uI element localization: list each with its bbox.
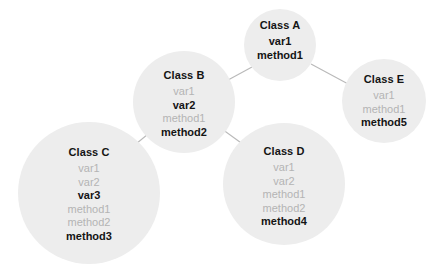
class-node-e[interactable]: Class Evar1method1method5 — [342, 59, 426, 143]
class-node-c[interactable]: Class Cvar1var2var3method1method2method3 — [18, 122, 160, 264]
class-node-a[interactable]: Class Avar1method1 — [244, 9, 316, 81]
class-member-inherited: method1 — [68, 203, 111, 217]
class-node-title: Class C — [68, 146, 109, 159]
class-member-list: var1var2method1method2 — [161, 85, 207, 139]
class-member-list: var1var2method1method2method4 — [261, 161, 307, 229]
class-node-b[interactable]: Class Bvar1var2method1method2 — [133, 51, 235, 153]
class-member-own: method1 — [257, 49, 303, 63]
class-member-inherited: var1 — [173, 85, 194, 99]
class-member-own: method5 — [361, 116, 407, 130]
edge-a-e — [311, 64, 350, 85]
class-node-title: Class E — [364, 73, 404, 86]
class-member-inherited: var1 — [273, 161, 294, 175]
class-node-title: Class A — [260, 19, 301, 32]
class-member-inherited: var2 — [273, 175, 294, 189]
class-member-own: method4 — [261, 215, 307, 229]
class-member-list: var1method1 — [257, 35, 303, 62]
class-member-own: var2 — [173, 99, 196, 113]
class-member-own: method2 — [161, 126, 207, 140]
class-member-inherited: var1 — [78, 162, 99, 176]
class-member-inherited: method2 — [68, 216, 111, 230]
class-member-inherited: method2 — [263, 202, 306, 216]
class-member-list: var1method1method5 — [361, 89, 407, 130]
class-member-inherited: var2 — [78, 176, 99, 190]
class-member-own: var3 — [78, 189, 101, 203]
class-member-inherited: var1 — [373, 89, 394, 103]
class-member-list: var1var2var3method1method2method3 — [66, 162, 112, 243]
class-member-inherited: method1 — [263, 188, 306, 202]
class-member-inherited: method1 — [363, 103, 406, 117]
class-node-title: Class D — [263, 145, 304, 158]
class-member-own: var1 — [269, 35, 292, 49]
class-member-own: method3 — [66, 230, 112, 244]
class-member-inherited: method1 — [163, 112, 206, 126]
class-node-title: Class B — [163, 69, 204, 82]
class-node-d[interactable]: Class Dvar1var2method1method2method4 — [223, 123, 345, 245]
